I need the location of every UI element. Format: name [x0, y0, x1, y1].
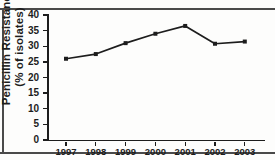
series-line-penicillin-resistance: [66, 26, 245, 59]
data-point-marker: [243, 40, 247, 44]
data-point-marker: [124, 41, 128, 45]
data-point-marker: [94, 52, 98, 56]
data-point-marker: [64, 57, 68, 61]
data-point-marker: [183, 24, 187, 28]
data-point-marker: [153, 32, 157, 36]
line-chart: Penicillin Resistance (% of isolates) 05…: [0, 0, 275, 160]
figure-panel: Penicillin Resistance (% of isolates) 05…: [0, 0, 275, 160]
series-plot: [0, 0, 275, 160]
data-point-marker: [213, 42, 217, 46]
